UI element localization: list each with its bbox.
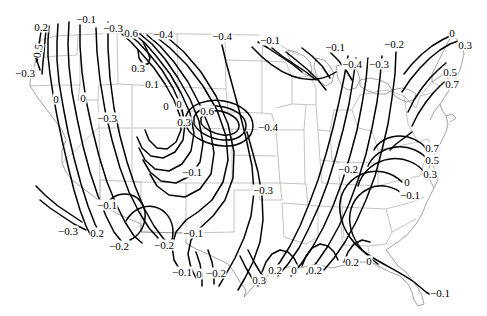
- coastline-layer: [30, 36, 464, 306]
- contour-line: [258, 42, 302, 72]
- contour-line: [307, 56, 382, 274]
- contour-line: [412, 79, 448, 126]
- contour-line: [48, 26, 92, 238]
- contour-map-figure: 0.2−0.1−0.30.6−0.4−0.4−0.1−0.1−0.200.30.…: [0, 0, 487, 316]
- contour-line: [42, 30, 46, 74]
- map-canvas: [0, 0, 487, 316]
- contour-line: [271, 56, 348, 274]
- contour-line: [155, 36, 228, 270]
- contour-line: [196, 252, 202, 286]
- contour-lines-layer: [36, 21, 458, 297]
- state-borders-layer: [30, 33, 448, 268]
- contour-line: [350, 186, 404, 264]
- contour-line: [302, 244, 338, 266]
- contour-line: [404, 36, 450, 74]
- contour-line: [344, 240, 370, 262]
